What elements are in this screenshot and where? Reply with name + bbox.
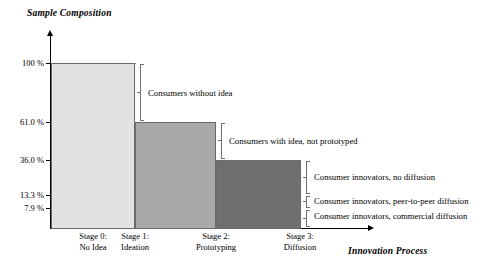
ytick-label-13-3: 13.3 %	[2, 190, 44, 200]
ytick-label-36: 36.0 %	[2, 155, 44, 165]
y-axis-arrow-icon	[47, 30, 53, 36]
xcat-stage-2-line2: Prototyping	[176, 242, 256, 253]
annotation-label-consumers-with-idea-not-prototyped: Consumers with idea, not prototyped	[229, 136, 358, 146]
bar-stage-0	[51, 63, 135, 229]
brace-consumers-without-idea	[137, 64, 144, 121]
brace-consumers-with-idea-not-prototyped	[218, 123, 225, 159]
chart-canvas: Sample Composition Innovation Process 10…	[0, 0, 503, 275]
brace-consumer-innovators-no-diffusion	[303, 161, 310, 194]
ytick-label-100: 100 %	[2, 58, 44, 68]
xcat-stage-2: Stage 2: Prototyping	[176, 231, 256, 253]
bar-stage-2	[216, 160, 301, 229]
brace-consumer-innovators-commercial	[303, 210, 310, 227]
xcat-stage-1-line1: Stage 1:	[95, 231, 175, 242]
annotation-label-consumer-innovators-peer-to-peer: Consumer innovators, peer-to-peer diffus…	[314, 196, 469, 206]
annotation-label-consumers-without-idea: Consumers without idea	[148, 88, 232, 98]
x-axis-title: Innovation Process	[348, 246, 427, 256]
annotation-label-consumer-innovators-commercial: Consumer innovators, commercial diffusio…	[314, 211, 467, 221]
x-axis-arrow-icon	[368, 225, 374, 231]
xcat-stage-1: Stage 1: Ideation	[95, 231, 175, 253]
xcat-stage-3-line1: Stage 3:	[260, 231, 340, 242]
y-axis-title: Sample Composition	[27, 8, 112, 18]
xcat-stage-3-line2: Diffusion	[260, 242, 340, 253]
brace-consumer-innovators-peer-to-peer	[303, 196, 310, 208]
xcat-stage-2-line1: Stage 2:	[176, 231, 256, 242]
xcat-stage-3: Stage 3: Diffusion	[260, 231, 340, 253]
annotation-label-consumer-innovators-no-diffusion: Consumer innovators, no diffusion	[314, 172, 435, 182]
xcat-stage-1-line2: Ideation	[95, 242, 175, 253]
bar-stage-1	[135, 122, 216, 229]
ytick-label-61: 61.0 %	[2, 117, 44, 127]
ytick-label-7-9: 7.9 %	[2, 203, 44, 213]
